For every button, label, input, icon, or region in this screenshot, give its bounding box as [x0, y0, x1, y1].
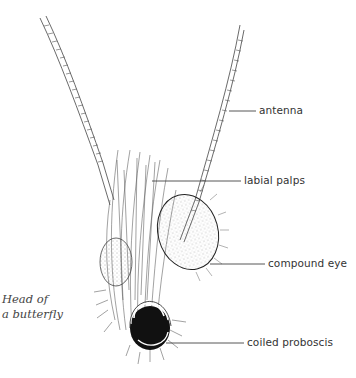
left-compound-eye	[100, 238, 132, 286]
figure-caption: Head of a butterfly	[2, 292, 63, 322]
label-antenna: antenna	[259, 104, 303, 116]
label-coiled-proboscis: coiled proboscis	[247, 336, 333, 348]
caption-line-1: Head of	[2, 292, 63, 307]
right-compound-eye	[149, 188, 227, 277]
caption-line-2: a butterfly	[2, 307, 63, 322]
left-antenna	[40, 16, 114, 205]
butterfly-head-diagram: antenna labial palps compound eye coiled…	[0, 0, 356, 378]
coiled-proboscis-shape	[130, 301, 171, 350]
label-compound-eye: compound eye	[268, 257, 347, 269]
label-labial-palps: labial palps	[244, 174, 305, 186]
